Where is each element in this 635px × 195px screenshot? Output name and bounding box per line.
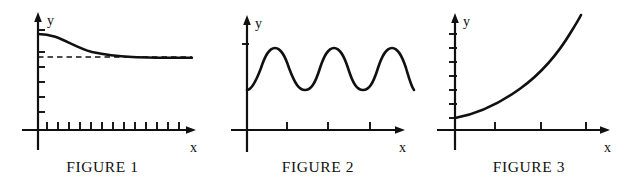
figure-2-y-axis-label: y	[255, 16, 262, 31]
figure-3-caption: FIGURE 3	[425, 158, 635, 176]
figure-panel-2: y x FIGURE 2	[215, 0, 425, 195]
figure-2-x-axis	[231, 122, 405, 134]
figure-3-y-axis-label: y	[463, 14, 470, 29]
figure-2-caption: FIGURE 2	[215, 158, 425, 176]
figure-1-x-axis	[22, 122, 196, 134]
figure-panel-3: y x FIGURE 3	[425, 0, 635, 195]
figure-3-x-axis-label: x	[604, 140, 611, 155]
figure-1-y-axis-label: y	[47, 13, 54, 28]
figure-2-y-axis	[242, 15, 251, 152]
figure-2-wave	[247, 48, 414, 90]
figure-3-x-axis	[437, 122, 610, 134]
figures-row: y x FIGURE 1	[0, 0, 635, 195]
figure-1-plot: y x	[0, 0, 215, 160]
figure-1-x-axis-label: x	[190, 140, 197, 155]
figure-3-curve	[455, 15, 581, 118]
figure-1-caption: FIGURE 1	[0, 158, 215, 176]
figure-2-x-axis-label: x	[399, 140, 406, 155]
figure-3-plot: y x	[425, 0, 635, 160]
figure-panel-1: y x FIGURE 1	[0, 0, 215, 195]
figure-1-curve	[38, 34, 192, 58]
figure-2-plot: y x	[215, 0, 425, 160]
